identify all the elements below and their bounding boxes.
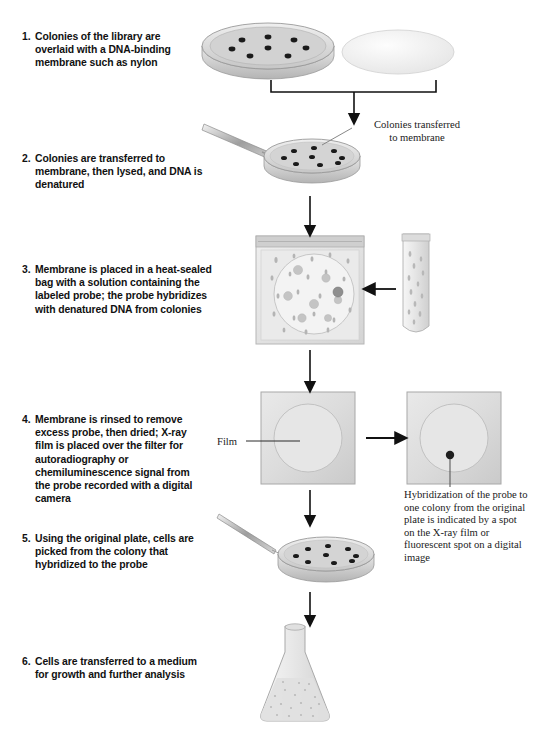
figure-canvas: 1. Colonies of the library are overlaid … xyxy=(0,0,535,736)
step-2-text: Colonies are transferred to membrane, th… xyxy=(22,152,207,192)
annotation-film: Film xyxy=(217,436,237,449)
annotation-colonies-transferred: Colonies transferred to membrane xyxy=(352,119,482,144)
heat-sealed-bag-illustration xyxy=(254,234,366,346)
petri-dish-with-forceps-illustration xyxy=(202,112,362,190)
step-5-text: Using the original plate, cells are pick… xyxy=(22,532,212,572)
petri-dish-with-needle-illustration xyxy=(216,512,376,592)
step-4: 4. Membrane is rinsed to remove excess p… xyxy=(22,413,202,505)
nylon-membrane-disc-illustration xyxy=(340,28,456,76)
x-ray-film-with-spot-illustration xyxy=(405,390,505,488)
hybridized-blot xyxy=(333,287,343,297)
step-6-text: Cells are transferred to a medium for gr… xyxy=(22,655,212,681)
step-3: 3. Membrane is placed in a heat-sealed b… xyxy=(22,263,227,316)
probe-test-tube-illustration xyxy=(400,232,432,340)
erlenmeyer-flask-illustration xyxy=(255,622,335,726)
step-3-number: 3. xyxy=(22,263,30,276)
step-5: 5. Using the original plate, cells are p… xyxy=(22,532,212,572)
merge-bracket xyxy=(271,80,436,92)
step-1-text: Colonies of the library are overlaid wit… xyxy=(22,30,182,70)
annotation-hybridization: Hybridization of the probe to one colony… xyxy=(404,489,528,565)
petri-dish-with-colonies-illustration xyxy=(196,18,346,80)
step-5-number: 5. xyxy=(22,532,30,545)
step-2-number: 2. xyxy=(22,152,30,165)
step-6: 6. Cells are transferred to a medium for… xyxy=(22,655,212,681)
step-1-number: 1. xyxy=(22,30,30,43)
step-3-text: Membrane is placed in a heat-sealed bag … xyxy=(22,263,227,316)
step-4-number: 4. xyxy=(22,413,30,426)
hybridization-spot xyxy=(446,451,454,459)
step-2: 2. Colonies are transferred to membrane,… xyxy=(22,152,207,192)
x-ray-film-blank-illustration xyxy=(259,390,359,488)
step-6-number: 6. xyxy=(22,655,30,668)
step-4-text: Membrane is rinsed to remove excess prob… xyxy=(22,413,202,505)
step-1: 1. Colonies of the library are overlaid … xyxy=(22,30,182,70)
